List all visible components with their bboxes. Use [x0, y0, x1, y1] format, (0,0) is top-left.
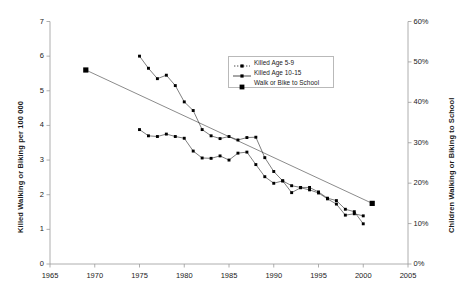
filled-square-marker-icon: [232, 78, 254, 88]
data-point-marker: [210, 134, 213, 137]
data-point-marker: [263, 156, 266, 159]
axis-tick-label: 10%: [414, 219, 444, 228]
data-point-marker: [192, 150, 195, 153]
data-point-marker: [344, 214, 347, 217]
data-point-marker: [362, 214, 365, 217]
data-point-marker: [228, 159, 231, 162]
data-point-marker: [237, 152, 240, 155]
data-point-marker: [147, 134, 150, 137]
data-point-marker: [219, 137, 222, 140]
data-point-marker: [370, 201, 375, 206]
data-point-marker: [335, 199, 338, 202]
data-point-marker: [183, 100, 186, 103]
axis-tick-label: 60%: [414, 17, 444, 26]
axis-tick-label: 50%: [414, 57, 444, 66]
axis-tick-label: 1990: [258, 271, 290, 280]
axis-tick-label: 2005: [392, 271, 424, 280]
axis-tick-label: 2000: [347, 271, 379, 280]
data-point-marker: [353, 212, 356, 215]
axis-tick-label: 1: [16, 224, 44, 233]
axis-tick-label: 3: [16, 155, 44, 164]
data-point-marker: [192, 109, 195, 112]
data-point-marker: [165, 74, 168, 77]
data-point-marker: [138, 128, 141, 131]
axis-tick-label: 2: [16, 190, 44, 199]
axis-tick-label: 1995: [303, 271, 335, 280]
chart-plot-area: [0, 0, 457, 299]
data-point-marker: [263, 175, 266, 178]
data-point-marker: [326, 197, 329, 200]
data-point-marker: [201, 157, 204, 160]
data-point-marker: [272, 182, 275, 185]
legend-item-killed-age-5-9: Killed Age 5-9: [229, 57, 333, 67]
axis-tick-label: 1975: [124, 271, 156, 280]
legend-label-killed-age-10-15: Killed Age 10-15: [254, 69, 301, 76]
axis-tick-label: 4: [16, 120, 44, 129]
data-point-marker: [362, 222, 365, 225]
data-point-marker: [174, 84, 177, 87]
data-point-marker: [83, 67, 88, 72]
data-point-marker: [317, 192, 320, 195]
axis-tick-label: 0%: [414, 259, 444, 268]
dotted-square-marker-icon: [232, 57, 254, 67]
data-point-marker: [245, 136, 248, 139]
data-point-marker: [201, 128, 204, 131]
data-point-marker: [290, 184, 293, 187]
data-point-marker: [272, 170, 275, 173]
axis-tick-label: 6: [16, 51, 44, 60]
data-point-marker: [254, 136, 257, 139]
data-point-marker: [344, 208, 347, 211]
data-point-marker: [335, 203, 338, 206]
axis-tick-label: 0: [16, 259, 44, 268]
axis-tick-label: 40%: [414, 97, 444, 106]
axis-tick-label: 1985: [213, 271, 245, 280]
axis-tick-label: 30%: [414, 138, 444, 147]
data-point-marker: [245, 151, 248, 154]
chart-legend: Killed Age 5-9 Killed Age 10-15 Walk or …: [228, 56, 334, 88]
data-point-marker: [290, 191, 293, 194]
line-square-marker-icon: [232, 67, 254, 77]
axis-tick-label: 1965: [34, 271, 66, 280]
legend-item-walk-or-bike-to-school: Walk or Bike to School: [229, 78, 333, 88]
axis-tick-label: 1970: [79, 271, 111, 280]
data-point-marker: [174, 135, 177, 138]
axis-tick-label: 5: [16, 86, 44, 95]
legend-item-killed-age-10-15: Killed Age 10-15: [229, 67, 333, 77]
data-point-marker: [165, 133, 168, 136]
data-point-marker: [281, 179, 284, 182]
data-point-marker: [299, 186, 302, 189]
data-point-marker: [183, 137, 186, 140]
axis-tick-label: 1980: [168, 271, 200, 280]
data-point-marker: [156, 77, 159, 80]
data-point-marker: [254, 163, 257, 166]
legend-label-killed-age-5-9: Killed Age 5-9: [254, 59, 294, 66]
axis-tick-label: 20%: [414, 178, 444, 187]
data-point-marker: [147, 67, 150, 70]
data-point-marker: [138, 55, 141, 58]
y-axis-right-title: Children Walking or Biking to School: [447, 98, 456, 233]
axis-tick-label: 7: [16, 17, 44, 26]
data-point-marker: [308, 188, 311, 191]
legend-label-walk-or-bike-to-school: Walk or Bike to School: [254, 79, 319, 86]
data-point-marker: [219, 154, 222, 157]
chart-container: Killed Walking or Biking per 100 000 Chi…: [0, 0, 457, 299]
data-point-marker: [156, 135, 159, 138]
data-point-marker: [210, 157, 213, 160]
